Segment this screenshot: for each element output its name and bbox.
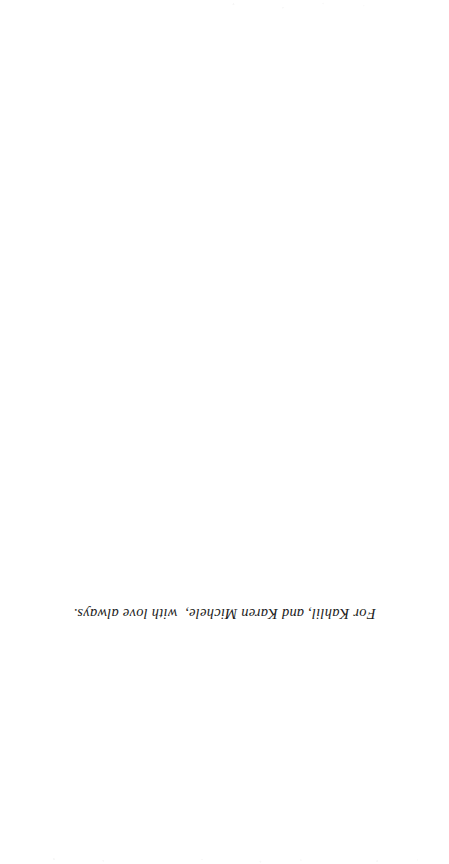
dedication-text: For Kahlil, and Karen Michele, with love… (73, 605, 375, 623)
scan-noise-top (0, 0, 449, 14)
scanned-page: For Kahlil, and Karen Michele, with love… (0, 0, 449, 864)
scan-noise-bottom (0, 848, 449, 864)
dedication-block: For Kahlil, and Karen Michele, with love… (0, 598, 449, 630)
